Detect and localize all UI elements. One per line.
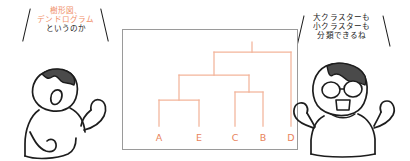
speech-right-line-3: 分類できるね [302,32,382,41]
right-arm-right [374,101,394,128]
speech-left-line-3: というのか [30,25,102,34]
right-character [286,44,404,161]
dendrogram-leaf-label-a: A [156,132,163,143]
left-body-left [25,110,39,156]
speech-slash-right-inner [382,15,390,46]
dendrogram-panel: AECBD [122,29,298,150]
right-arm-right-lower [374,112,381,126]
left-character-speech: 樹形図、 デンドログラム というのか [30,7,102,34]
illustration-scene: 樹形図、 デンドログラム というのか 大クラスターも 小クラスターも 分類できる… [0,0,410,161]
left-character [12,44,124,161]
right-body-bottom [311,154,375,157]
left-arm-upper [84,100,106,130]
left-body-bottom [25,138,76,158]
right-arm-left [294,103,314,128]
dendrogram-chart [123,30,299,151]
dendrogram-leaf-label-b: B [260,132,267,143]
right-mouth [336,100,350,110]
left-ear [51,90,62,105]
right-arm-left-lower [307,113,315,127]
right-glasses-right-lens [344,81,362,97]
dendrogram-leaf-label-c: C [232,132,239,143]
right-body-right [358,114,375,154]
right-glasses-left-lens [322,82,340,98]
dendrogram-leaf-label-e: E [196,132,202,143]
left-hand [30,132,56,152]
right-character-speech: 大クラスターも 小クラスターも 分類できるね [302,14,382,41]
